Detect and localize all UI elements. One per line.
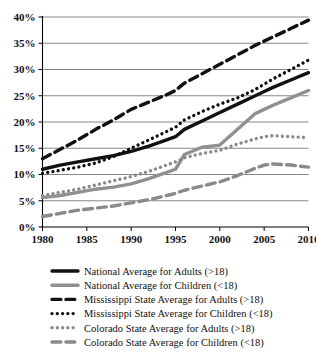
x-tick-label: 2010 (298, 233, 317, 245)
obesity-trend-chart: 0%5%10%15%20%25%30%35%40% 19801985199019… (0, 0, 316, 353)
x-tick-label: 1990 (120, 233, 143, 245)
x-tick-label: 2000 (209, 233, 232, 245)
y-tick-label: 0% (19, 221, 36, 233)
y-tick-label: 20% (14, 116, 36, 128)
axes (39, 16, 309, 231)
y-tick-label: 15% (14, 142, 36, 154)
y-tick-label: 5% (19, 195, 36, 207)
y-tick-label: 40% (14, 11, 36, 23)
chart-canvas: 0%5%10%15%20%25%30%35%40% 19801985199019… (0, 0, 316, 353)
x-tick-label: 1985 (76, 233, 99, 245)
series-line-1 (43, 91, 309, 198)
legend-label-3: Mississippi State Average for Children (… (84, 308, 273, 320)
legend-label-5: Colorado State Average for Children (<18… (84, 337, 264, 349)
x-tick-label: 1980 (32, 233, 55, 245)
y-tick-label: 10% (14, 168, 36, 180)
y-tick-label: 35% (14, 37, 36, 49)
legend-label-4: Colorado State Average for Adults (>18) (84, 323, 255, 335)
chart-legend: National Average for Adults (>18)Nationa… (52, 266, 273, 349)
data-series (43, 20, 309, 216)
legend-label-1: National Average for Children (<18) (84, 280, 238, 292)
x-tick-label: 2005 (253, 233, 276, 245)
series-line-0 (43, 73, 309, 170)
legend-label-2: Mississippi State Average for Adults (>1… (84, 294, 264, 306)
x-tick-label: 1995 (165, 233, 188, 245)
x-axis-tick-labels: 1980198519901995200020052010 (32, 233, 317, 245)
legend-label-0: National Average for Adults (>18) (84, 266, 228, 278)
y-tick-label: 25% (14, 90, 36, 102)
y-axis-tick-labels: 0%5%10%15%20%25%30%35%40% (14, 11, 36, 233)
series-line-3 (43, 60, 309, 173)
y-tick-label: 30% (14, 63, 36, 75)
